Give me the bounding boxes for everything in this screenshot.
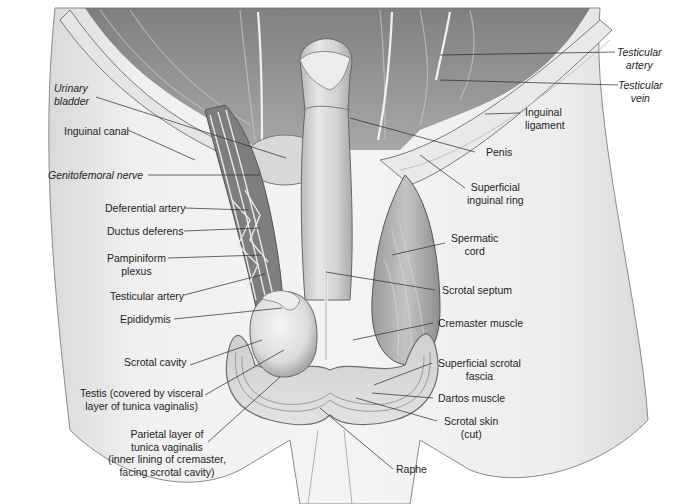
label-inguinal-canal: Inguinal canal <box>64 125 129 138</box>
label-pampiniform-plexus: Pampiniform plexus <box>107 252 166 277</box>
label-superficial-inguinal-ring: Superficial inguinal ring <box>467 181 524 206</box>
label-testis: Testis (covered by visceral layer of tun… <box>80 387 203 412</box>
label-scrotal-septum: Scrotal septum <box>442 284 512 297</box>
anatomy-figure: Urinary bladder Inguinal canal Genitofem… <box>0 0 686 504</box>
label-urinary-bladder: Urinary bladder <box>54 82 89 107</box>
label-testicular-artery-left: Testicular artery <box>110 290 184 303</box>
label-testicular-artery-right: Testicular artery <box>617 46 662 71</box>
label-ductus-deferens: Ductus deferens <box>107 225 183 238</box>
label-dartos-muscle: Dartos muscle <box>438 392 505 405</box>
label-superficial-scrotal-fascia: Superficial scrotal fascia <box>438 357 521 382</box>
label-inguinal-ligament: Inguinal ligament <box>525 106 565 131</box>
label-testicular-vein: Testicular vein <box>618 79 663 104</box>
label-epididymis: Epididymis <box>120 313 171 326</box>
label-raphe: Raphe <box>396 463 427 476</box>
anatomy-illustration <box>0 0 686 504</box>
label-spermatic-cord: Spermatic cord <box>451 232 498 257</box>
label-scrotal-cavity: Scrotal cavity <box>124 356 186 369</box>
label-cremaster-muscle: Cremaster muscle <box>438 317 523 330</box>
label-parietal-layer-tunica-vaginalis: Parietal layer of tunica vaginalis (inne… <box>108 428 226 478</box>
label-scrotal-skin: Scrotal skin (cut) <box>444 415 498 440</box>
label-genitofemoral-nerve: Genitofemoral nerve <box>48 169 143 182</box>
label-penis: Penis <box>486 146 512 159</box>
label-deferential-artery: Deferential artery <box>105 202 186 215</box>
